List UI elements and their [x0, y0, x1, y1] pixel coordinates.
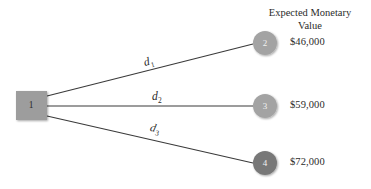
column-header: Expected Monetary Value	[252, 6, 368, 32]
emv-value-node-2: $46,000	[290, 36, 325, 47]
outcome-node-4-label: 4	[257, 158, 273, 168]
outcome-node-3-label: 3	[257, 101, 273, 111]
decision-tree-figure: Expected Monetary Value 1 2 3 4 d1 d2 d3…	[0, 0, 371, 189]
column-header-line1: Expected Monetary	[252, 6, 368, 19]
branch-label-d2-letter: d	[152, 90, 158, 102]
branch-label-d2-subscript: 2	[158, 96, 162, 105]
outcome-node-2-label: 2	[257, 38, 273, 48]
branch-line-d1	[47, 44, 253, 96]
emv-value-node-3: $59,000	[290, 99, 325, 110]
emv-value-node-4: $72,000	[290, 156, 325, 167]
column-header-line2: Value	[252, 19, 368, 32]
branch-line-d3	[47, 116, 253, 163]
decision-node-1-label: 1	[23, 100, 39, 110]
branch-label-d2: d2	[152, 90, 162, 105]
